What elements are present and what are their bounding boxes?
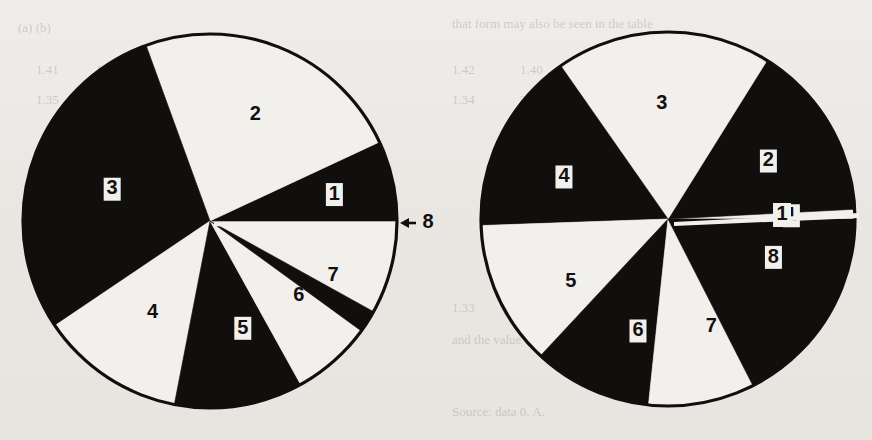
pie-chart-right: 123456781 (481, 32, 859, 406)
pie-slice-label-1: 1 (329, 182, 340, 204)
pie-slice-label-6: 6 (293, 283, 304, 305)
pie-slice-label-5: 5 (237, 316, 248, 338)
figure-container: (a) (b)that form may also be seen in the… (0, 0, 872, 440)
pie-slice-label-7: 7 (327, 263, 338, 285)
pie-slice-label-5: 5 (565, 269, 576, 291)
pie-slice-label-7: 7 (706, 314, 717, 336)
pie-slice-label-2: 2 (250, 102, 261, 124)
pie-slice-label-8: 8 (768, 245, 779, 267)
pie-slice-label-6: 6 (632, 318, 643, 340)
pie-slice-label-2: 2 (763, 148, 774, 170)
pie-slice-label-8: 8 (422, 210, 433, 232)
pie-slice-label-3: 3 (656, 91, 667, 113)
pie-slice-label-4: 4 (558, 164, 570, 186)
pie-slice-label-3: 3 (107, 176, 118, 198)
slice-8-arrowhead (400, 218, 409, 228)
pie-slice-label-4: 4 (147, 300, 159, 322)
pie-charts-svg: 12345678123456781 (0, 0, 872, 440)
pie-chart-left: 12345678 (23, 34, 434, 408)
slice-1-annotation-label: 1 (776, 202, 787, 224)
